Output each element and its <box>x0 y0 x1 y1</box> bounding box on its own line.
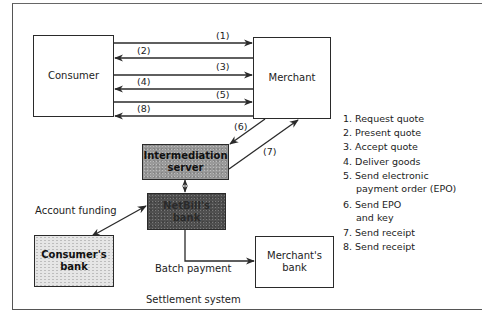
netbill-bank-label-line2: bank <box>163 212 210 224</box>
legend-item-6-cont: and key <box>343 211 456 225</box>
legend: 1. Request quote 2. Present quote 3. Acc… <box>343 112 456 254</box>
legend-item-8: 8. Send receipt <box>343 240 456 254</box>
legend-item-7: 7. Send receipt <box>343 226 456 240</box>
arrow-label-2: (2) <box>137 45 150 56</box>
arrow-label-4: (4) <box>137 76 150 87</box>
merchants-bank-label-line1: Merchant's <box>267 250 322 262</box>
intermediation-server-label-line2: server <box>143 162 227 174</box>
legend-item-4: 4. Deliver goods <box>343 155 456 169</box>
consumers-bank-label-line1: Consumer's <box>41 249 107 261</box>
merchant-node: Merchant <box>253 37 331 119</box>
legend-item-5: 5. Send electronic <box>343 169 456 183</box>
settlement-system-label: Settlement system <box>146 294 241 305</box>
arrow-label-1: (1) <box>216 30 229 41</box>
legend-item-5-cont: payment order (EPO) <box>343 182 456 196</box>
arrow-label-8: (8) <box>137 103 150 114</box>
legend-item-2: 2. Present quote <box>343 126 456 140</box>
intermediation-server-label-line1: Intermediation <box>143 150 227 162</box>
merchant-label: Merchant <box>269 72 316 84</box>
arrow-label-6: (6) <box>234 121 247 132</box>
netbill-bank-node: NetBill's bank <box>147 193 226 230</box>
arrow-label-3: (3) <box>216 61 229 72</box>
merchants-bank-node: Merchant's bank <box>255 236 334 288</box>
arrow-batch-payment <box>185 229 254 261</box>
account-funding-label: Account funding <box>35 205 117 216</box>
consumer-node: Consumer <box>33 35 114 117</box>
intermediation-server-node: Intermediation server <box>142 144 229 180</box>
legend-item-6: 6. Send EPO <box>343 198 456 212</box>
batch-payment-label: Batch payment <box>155 263 231 274</box>
legend-item-1: 1. Request quote <box>343 112 456 126</box>
arrow-label-5: (5) <box>216 89 229 100</box>
consumer-label: Consumer <box>48 70 99 82</box>
consumers-bank-label-line2: bank <box>41 261 107 273</box>
consumers-bank-node: Consumer's bank <box>34 235 114 287</box>
merchants-bank-label-line2: bank <box>267 262 322 274</box>
legend-item-3: 3. Accept quote <box>343 140 456 154</box>
netbill-bank-label-line1: NetBill's <box>163 200 210 212</box>
arrow-label-7: (7) <box>263 146 276 157</box>
